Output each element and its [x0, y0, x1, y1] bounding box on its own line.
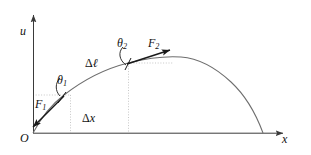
force-vectors — [33, 50, 170, 127]
arc-length-label: Δℓ — [85, 57, 98, 69]
horizontal-span-delta: Δ — [82, 111, 90, 125]
string-displacement-curve — [33, 57, 263, 133]
construction-guides — [33, 63, 173, 133]
origin-label: O — [20, 132, 29, 144]
angle-theta2-subscript: 2 — [123, 42, 127, 51]
angle-theta2-label: θ2 — [117, 37, 127, 51]
arc-length-delta: Δ — [85, 56, 93, 70]
force-on-string-element-diagram: u x O F1 F2 θ1 θ2 Δℓ Δx — [0, 0, 311, 155]
u-axis-label: u — [20, 25, 26, 37]
angle-arcs — [56, 47, 126, 96]
force-f2-subscript: 2 — [155, 42, 159, 51]
angle-theta1-subscript: 1 — [63, 79, 67, 88]
arc-length-symbol: ℓ — [93, 56, 98, 70]
diagram-canvas — [0, 0, 311, 155]
horizontal-span-symbol: x — [90, 111, 95, 125]
axes-group — [33, 15, 283, 133]
horizontal-span-label: Δx — [82, 112, 95, 124]
force-f1-label: F1 — [35, 98, 46, 112]
x-axis-label: x — [282, 133, 287, 145]
angle-theta1-label: θ1 — [57, 74, 67, 88]
force-f2-label: F2 — [148, 37, 159, 51]
force-f1-subscript: 1 — [42, 103, 46, 112]
